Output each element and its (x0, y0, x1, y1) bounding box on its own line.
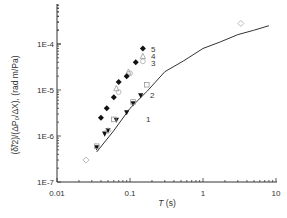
series-label-5: 5 (151, 45, 156, 54)
x-axis-ticks (57, 178, 276, 182)
y-tick-label: 1E-5 (37, 86, 54, 95)
series-label-2: 2 (150, 91, 155, 100)
marker-diamond-filled (111, 94, 117, 100)
series-labels: 1 2 3 4 5 (146, 45, 156, 124)
series-label-1: 1 (146, 115, 151, 124)
x-tick-label: 0.01 (49, 189, 65, 198)
marker-triangle-up (114, 85, 119, 90)
marker-diamond-filled (104, 105, 110, 111)
x-tick-label: 1 (201, 189, 206, 198)
x-tick-label: 0.1 (124, 189, 136, 198)
y-axis-ticks (57, 5, 61, 182)
marker-triangle-down (124, 110, 129, 115)
y-tick-label: 1E-4 (37, 40, 54, 49)
marker-triangle-up (140, 53, 145, 58)
y-axis-title: (δ̃/2)/(ΔP₀/ΔX), (rad m/Pa) (10, 55, 20, 154)
y-tick-label: 1E-7 (37, 178, 54, 187)
y-tick-labels: 1E-71E-61E-51E-4 (37, 40, 54, 187)
x-tick-label: 10 (272, 189, 281, 198)
x-tick-labels: 0.010.1110 (49, 189, 281, 198)
marker-diamond-open (83, 157, 89, 163)
marker-diamond-open (238, 20, 244, 26)
marker-diamond-filled (133, 59, 139, 65)
chart: 1E-71E-61E-51E-4 0.010.1110 T (s) (δ̃/2)… (0, 0, 287, 218)
marker-diamond-filled (140, 45, 146, 51)
y-tick-label: 1E-6 (37, 132, 54, 141)
marker-circle (140, 59, 145, 64)
marker-square (145, 82, 150, 87)
axes (57, 4, 277, 182)
model-curve (97, 26, 269, 152)
marker-diamond-filled (116, 79, 122, 85)
marker-diamond-filled (98, 115, 104, 121)
x-axis-title: T (s) (158, 198, 176, 208)
